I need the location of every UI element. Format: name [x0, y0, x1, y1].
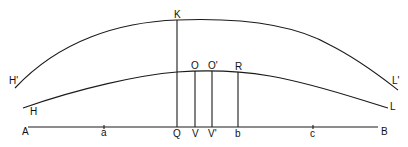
label-o-prime: O' [208, 60, 218, 71]
label-b-upper: B [381, 126, 388, 137]
label-a-lower: a [101, 127, 107, 138]
label-a-upper: A [22, 126, 29, 137]
label-k: K [174, 9, 181, 20]
label-q: Q [173, 128, 181, 139]
label-b: b [235, 128, 241, 139]
label-l: L [390, 101, 396, 112]
label-v: V [192, 128, 199, 139]
label-h: H [30, 106, 37, 117]
label-r: R [235, 61, 242, 72]
label-l-prime: L' [392, 75, 400, 86]
label-h-prime: H' [9, 75, 18, 86]
lower-curve [23, 71, 388, 108]
upper-curve [15, 20, 398, 90]
label-o: O [191, 60, 199, 71]
label-v-prime: V' [208, 128, 217, 139]
label-c: c [310, 128, 315, 139]
geometry-diagram: H' H K O O' R L' L A a Q V V' b c B [0, 0, 408, 147]
